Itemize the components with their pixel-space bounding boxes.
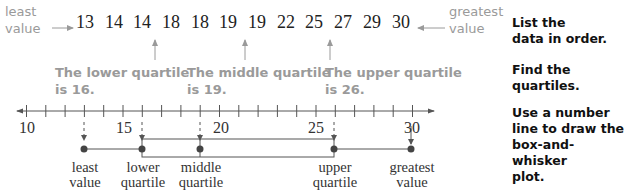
upper-quartile-dot — [331, 146, 338, 153]
upper-quartile-point-label: upper quartile — [313, 160, 357, 190]
middle-quartile-point-label: middle quartile — [179, 160, 223, 190]
box — [142, 139, 334, 157]
lower-quartile-point-label: lower quartile — [121, 160, 165, 190]
value-markers — [84, 122, 411, 144]
tick-label: 30 — [404, 119, 420, 137]
tick-label: 10 — [19, 119, 35, 137]
tick-label: 25 — [308, 119, 324, 137]
lower-quartile-dot — [139, 146, 146, 153]
tick-label: 15 — [116, 119, 132, 137]
tick-label: 20 — [213, 119, 229, 137]
least-value-dot — [81, 146, 88, 153]
median-dot — [197, 146, 204, 153]
greatest-value-point-label: greatest value — [389, 160, 434, 190]
least-value-point-label: least value — [69, 160, 100, 190]
greatest-value-dot — [408, 146, 415, 153]
number-line — [16, 105, 435, 117]
